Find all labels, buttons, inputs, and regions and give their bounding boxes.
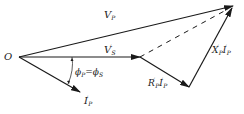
vp-vector [19,6,233,57]
vs-label: V′S [104,44,116,56]
phasor-diagram [0,0,244,114]
origin-label: O [4,52,12,62]
angle-label: ϕP=ϕS [75,68,103,78]
xi-label: X′PI′P [212,44,231,56]
ri-label: R′PI′P [148,77,167,89]
ip-label: I′P [84,95,92,107]
vp-label: VP [104,10,115,21]
angle-arc [68,57,73,84]
